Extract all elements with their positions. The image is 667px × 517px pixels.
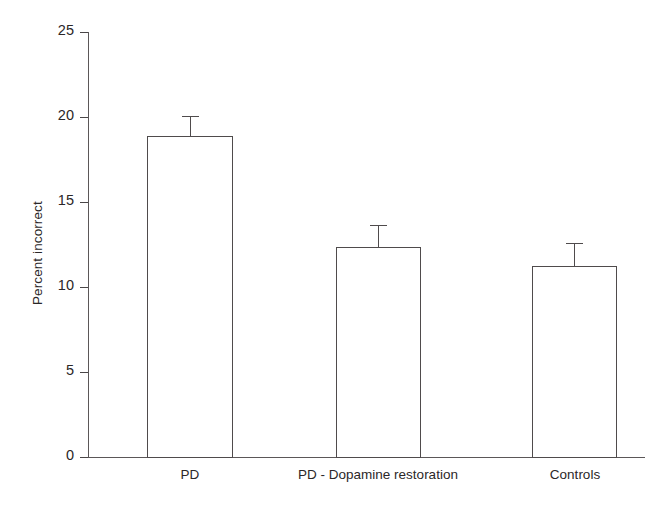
x-category-label-controls: Controls [515,467,635,482]
y-tick-mark-5 [80,372,88,373]
y-axis-title: Percent incorrect [30,201,45,305]
error-bar-stem-pd [190,116,191,137]
error-bar-cap-controls [566,243,583,244]
y-tick-mark-0 [80,457,88,458]
x-category-label-pd: PD [130,467,250,482]
y-tick-label-25: 25 [44,22,74,38]
x-category-label-pd-dopamine-restoration: PD - Dopamine restoration [268,467,488,482]
error-bar-stem-controls [574,243,575,267]
bar-chart-figure: Percent incorrect 25 20 15 10 5 0 PD PD … [0,0,667,517]
bar-controls[interactable] [532,266,617,458]
y-tick-label-0: 0 [44,447,74,463]
y-tick-mark-15 [80,202,88,203]
y-tick-label-5: 5 [44,362,74,378]
y-tick-label-15: 15 [44,192,74,208]
y-tick-label-20: 20 [44,107,74,123]
bar-pd-dopamine-restoration[interactable] [336,247,421,458]
y-tick-label-10: 10 [44,277,74,293]
error-bar-cap-pd [182,116,199,117]
error-bar-stem-pd-dopamine-restoration [378,225,379,248]
y-tick-mark-20 [80,117,88,118]
y-tick-mark-10 [80,287,88,288]
bar-pd[interactable] [147,136,233,458]
x-tick-mark-0 [88,441,89,457]
y-axis-line [88,32,89,458]
error-bar-cap-pd-dopamine-restoration [370,225,387,226]
y-tick-mark-25 [80,32,88,33]
